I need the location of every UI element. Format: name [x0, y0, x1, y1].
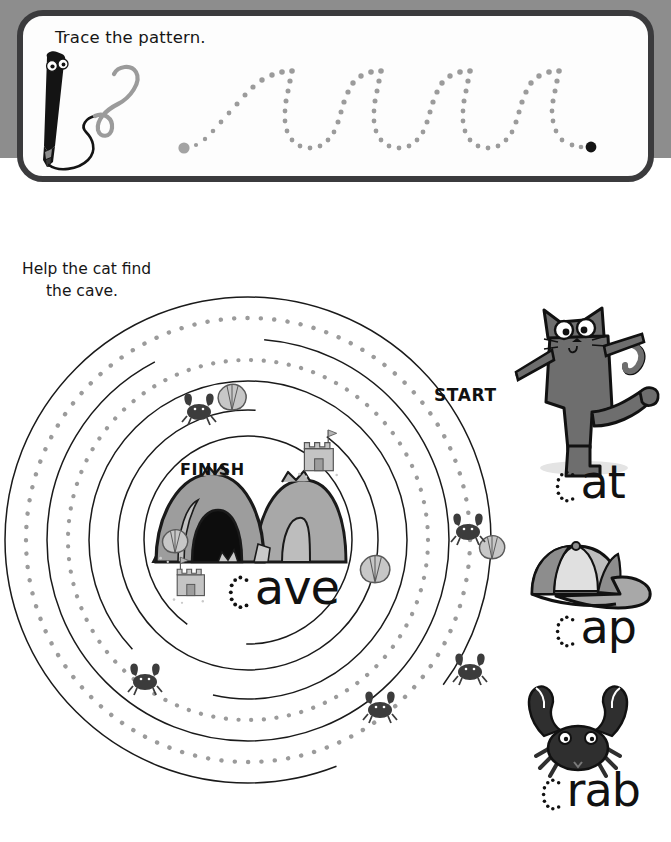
sandcastle-icon [173, 557, 205, 604]
trace-pattern-graphic [0, 0, 671, 200]
dotted-letter-c[interactable] [553, 452, 581, 498]
shell-icon [361, 555, 390, 582]
word-label-cat: at [553, 452, 625, 509]
word-label-crab-rest: rab [567, 763, 640, 817]
worksheet-page: Trace the pattern. [0, 0, 671, 842]
sandcastle-icon [298, 430, 338, 478]
word-label-crab: rab [539, 760, 640, 817]
trace-end-dot [586, 142, 597, 153]
word-label-cat-rest: at [581, 455, 625, 509]
trace-start-dot [178, 142, 189, 153]
crab-icon [363, 691, 397, 723]
maze-start-label: START [434, 385, 497, 405]
trace-dotted-path [194, 68, 583, 150]
word-list [500, 280, 671, 842]
word-list-graphics [500, 280, 671, 842]
cave-word: ave [226, 556, 339, 615]
crab-icon [453, 653, 487, 685]
maze-finish-label: FINISH [180, 460, 245, 479]
pen-icon [43, 51, 138, 169]
dotted-letter-c[interactable] [553, 597, 581, 643]
word-label-cap-rest: ap [581, 600, 636, 654]
dotted-letter-c[interactable] [539, 760, 567, 806]
cave-word-rest: ave [255, 559, 339, 615]
cat-icon [516, 308, 658, 476]
word-label-cap: ap [553, 597, 636, 654]
shell-icon [218, 384, 246, 410]
dotted-letter-c[interactable] [226, 556, 255, 604]
